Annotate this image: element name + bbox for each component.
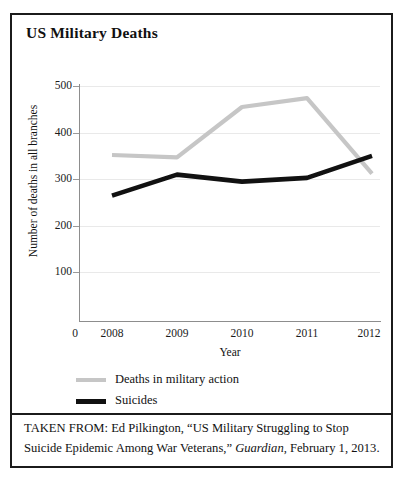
ytick-label-100: 100 [36, 266, 72, 278]
x-axis-title: Year [80, 346, 380, 358]
figure-frame: US Military Deaths 500 400 300 [10, 13, 393, 468]
series-lines [80, 86, 382, 322]
y-axis-title: Number of deaths in all branches [27, 81, 39, 281]
ytick-label-500: 500 [36, 80, 72, 92]
xtick-label-2012: 2012 [339, 327, 399, 339]
legend-swatch-suicides [76, 399, 106, 404]
xtick-label-2008: 2008 [82, 327, 142, 339]
figure-page: US Military Deaths 500 400 300 [0, 0, 407, 488]
source-note-suffix: , February 1, 2013. [284, 441, 380, 455]
page-title: US Military Deaths [26, 24, 158, 42]
ytick-label-400: 400 [36, 127, 72, 139]
ytick-label-200: 200 [36, 220, 72, 232]
source-divider [12, 413, 391, 415]
legend-item-suicides: Suicides [76, 391, 366, 412]
chart-legend: Deaths in military action Suicides [76, 370, 366, 412]
chart-area: 500 400 300 200 100 0 2008 2009 2010 201… [12, 57, 391, 353]
line-deaths-in-military-action [112, 98, 372, 174]
xtick-label-2011: 2011 [277, 327, 337, 339]
legend-label-military-action: Deaths in military action [115, 370, 239, 389]
legend-swatch-military-action [76, 378, 106, 382]
source-publication: Guardian [235, 441, 284, 455]
source-note: TAKEN FROM: Ed Pilkington, “US Military … [24, 419, 380, 458]
legend-label-suicides: Suicides [115, 391, 157, 410]
xtick-label-2009: 2009 [147, 327, 207, 339]
ytick-label-300: 300 [36, 173, 72, 185]
line-suicides [112, 156, 372, 196]
xtick-label-2010: 2010 [212, 327, 272, 339]
legend-item-military-action: Deaths in military action [76, 370, 366, 391]
